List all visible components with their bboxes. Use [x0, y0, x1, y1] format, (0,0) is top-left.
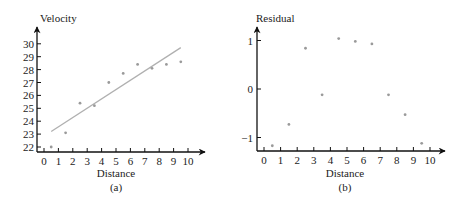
data-point	[337, 37, 340, 40]
data-point	[288, 123, 291, 126]
x-tick-label: 5	[113, 155, 119, 167]
x-ticks: 012345678910	[41, 148, 194, 167]
x-ticks: 012345678910	[261, 147, 436, 166]
data-point	[354, 40, 357, 43]
y-tick-label: 22	[23, 141, 34, 153]
x-axis-label: Distance	[97, 167, 136, 179]
x-tick-label: 5	[344, 154, 350, 166]
x-tick-label: 6	[128, 155, 134, 167]
data-point	[50, 146, 53, 149]
data-point	[271, 144, 274, 147]
residual-chart-panel: Residual −101 012345678910 Distance (b)	[241, 12, 445, 194]
x-tick-label: 4	[99, 155, 105, 167]
data-point	[93, 104, 96, 107]
x-tick-label: 1	[278, 154, 284, 166]
x-tick-label: 8	[394, 154, 400, 166]
data-point	[136, 63, 139, 66]
y-tick-label: 23	[23, 128, 35, 140]
data-point	[151, 67, 154, 70]
y-tick-label: 25	[23, 102, 35, 114]
y-tick-label: 1	[248, 35, 254, 47]
x-tick-label: 10	[183, 155, 195, 167]
y-tick-label: 27	[23, 77, 35, 89]
y-tick-label: 26	[23, 89, 35, 101]
data-point	[165, 63, 168, 66]
panel-caption: (a)	[110, 181, 123, 194]
data-point	[387, 93, 390, 96]
x-tick-label: 6	[361, 154, 367, 166]
x-tick-label: 0	[41, 155, 47, 167]
x-tick-label: 9	[171, 155, 177, 167]
y-ticks: 222324252627282930	[23, 38, 41, 153]
x-tick-label: 3	[311, 154, 317, 166]
x-tick-label: 10	[425, 154, 437, 166]
data-point	[321, 93, 324, 96]
y-tick-label: 30	[23, 38, 35, 50]
x-tick-label: 3	[84, 155, 90, 167]
y-tick-label: 0	[248, 83, 254, 95]
data-point	[64, 131, 67, 134]
y-tick-label: 24	[23, 115, 35, 127]
data-point	[304, 47, 307, 50]
y-tick-label: 29	[23, 51, 35, 63]
panel-caption: (b)	[339, 181, 352, 194]
data-point	[79, 102, 82, 105]
x-axis-label: Distance	[326, 167, 365, 179]
data-point	[371, 42, 374, 45]
x-tick-label: 1	[56, 155, 62, 167]
y-tick-label: 28	[23, 64, 35, 76]
x-tick-label: 9	[411, 154, 417, 166]
x-tick-label: 4	[328, 154, 334, 166]
y-tick-label: −1	[241, 132, 253, 144]
data-point	[420, 142, 423, 145]
data-points	[50, 60, 182, 148]
data-point	[404, 113, 407, 116]
data-point	[107, 81, 110, 84]
y-axis-label: Velocity	[40, 12, 77, 24]
x-tick-label: 7	[377, 154, 383, 166]
velocity-chart-panel: Velocity 222324252627282930 012345678910…	[23, 12, 205, 194]
data-point	[179, 60, 182, 63]
chart-canvas: Velocity 222324252627282930 012345678910…	[0, 0, 466, 199]
y-axis-label: Residual	[256, 12, 295, 24]
x-tick-label: 0	[261, 154, 267, 166]
data-point	[122, 72, 125, 75]
y-ticks: −101	[241, 35, 261, 144]
x-tick-label: 2	[294, 154, 300, 166]
regression-line	[51, 48, 181, 132]
x-tick-label: 7	[142, 155, 148, 167]
x-tick-label: 2	[70, 155, 76, 167]
data-points	[271, 37, 423, 147]
x-tick-label: 8	[156, 155, 162, 167]
